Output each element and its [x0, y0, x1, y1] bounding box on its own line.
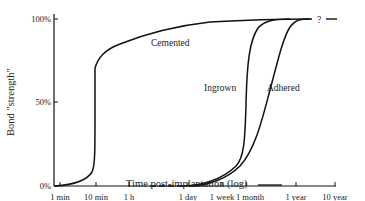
y-tick-100: 100%	[31, 14, 51, 24]
x-tick-1month: 1 month	[236, 192, 265, 201]
y-axis-title: Bond "strength"	[5, 68, 16, 136]
ingrown-curve	[182, 19, 290, 186]
y-tick-50: 50%	[35, 97, 51, 107]
adhered-curve	[190, 19, 310, 186]
x-axis-title: Time post-implantation (log)	[126, 178, 248, 190]
y-tick-0: 0%	[40, 181, 51, 191]
x-tick-1day: 1 day	[179, 192, 198, 201]
x-tick-1h: 1 h	[124, 192, 135, 201]
bond-strength-chart: 100% 50% 0% 1 min 10 min 1 h 1 day 1 wee…	[0, 0, 365, 201]
x-tick-10min: 10 min	[84, 192, 109, 201]
label-adhered: Adhered	[267, 83, 300, 93]
x-tick-1week: 1 week	[210, 192, 235, 201]
x-tick-10year: 10 year	[322, 192, 347, 201]
label-ingrown: Ingrown	[204, 83, 236, 93]
x-tick-1year: 1 year	[285, 192, 306, 201]
label-cemented: Cemented	[151, 38, 190, 48]
x-tick-1min: 1 min	[50, 192, 70, 201]
question-mark: ?	[317, 15, 321, 25]
